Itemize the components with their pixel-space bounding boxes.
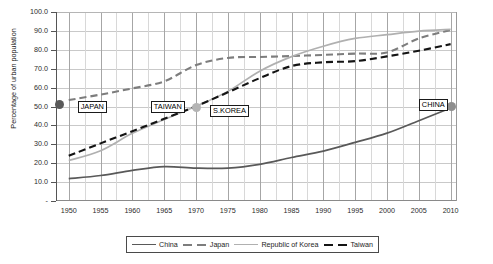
y-axis-tick-mark [51, 201, 56, 202]
series-line-japan [69, 30, 451, 100]
annotation-marker-s-korea [192, 103, 201, 112]
legend-label: Republic of Korea [261, 240, 318, 249]
annotation-label-china: CHINA [419, 99, 448, 111]
y-axis-tick-label: 10.0 [4, 178, 48, 186]
y-axis-tick-label: 70.0 [4, 65, 48, 73]
y-axis-tick-label: 60.0 [4, 84, 48, 92]
y-axis-tick-label: 40.0 [4, 121, 48, 129]
y-axis-tick-label: 50.0 [4, 103, 48, 111]
series-line-taiwan [69, 44, 451, 156]
plot-area: JAPANTAIWANS.KOREACHINA [56, 12, 457, 201]
legend-item-japan: Japan [183, 240, 230, 249]
y-axis-tick-label: 30.0 [4, 140, 48, 148]
y-axis-tick-label: - [4, 197, 48, 205]
y-axis-tick-label: 100.0 [4, 8, 48, 16]
y-axis-tick-label: 20.0 [4, 159, 48, 167]
chart-figure: Percentage of urban population 100.090.0… [0, 0, 493, 264]
x-axis-tick-label: 2010 [431, 206, 471, 215]
series-lines [56, 12, 457, 201]
annotation-label-s-korea: S.KOREA [210, 105, 249, 117]
legend-item-taiwan: Taiwan [324, 240, 373, 249]
y-axis-tick-label: 80.0 [4, 46, 48, 54]
legend-item-china: China [132, 240, 178, 249]
legend-item-republic-of-korea: Republic of Korea [234, 240, 318, 249]
legend-label: China [159, 240, 178, 249]
series-line-republic-of-korea [69, 29, 451, 160]
series-line-china [69, 108, 451, 179]
y-axis-tick-label: 90.0 [4, 27, 48, 35]
annotation-label-japan: JAPAN [78, 101, 107, 113]
legend-label: Japan [210, 240, 230, 249]
annotation-label-taiwan: TAIWAN [151, 101, 185, 113]
legend-label: Taiwan [351, 240, 373, 249]
chart-legend: ChinaJapanRepublic of KoreaTaiwan [126, 236, 379, 253]
